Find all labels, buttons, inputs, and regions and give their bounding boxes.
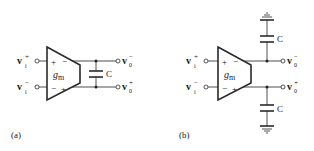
output-label-minus-sup-b: − (294, 53, 298, 61)
output-label-minus-sub-a: 0 (129, 62, 132, 68)
terminal-output-plus-b (281, 85, 285, 89)
output-label-plus-b: v (287, 81, 292, 92)
terminal-input-minus-a (35, 85, 39, 89)
sign-plus-bottom-right-a: + (61, 84, 66, 94)
output-label-minus-b: v (287, 55, 292, 66)
sign-minus-bottom-left-b: − (222, 83, 227, 93)
output-label-plus-sup-b: + (294, 79, 298, 87)
output-label-plus-sub-a: 0 (129, 88, 132, 94)
caption-a: (a) (11, 130, 21, 140)
input-label-plus-b: v (186, 55, 191, 66)
caption-b: (b) (179, 130, 190, 140)
input-label-plus-sup-b: + (194, 53, 198, 61)
sign-plus-top-left-b: + (222, 57, 227, 67)
output-label-plus-sup-a: + (129, 79, 133, 87)
input-label-plus-sub-b: i (194, 63, 196, 69)
input-label-minus-sup-a: − (25, 79, 29, 87)
output-label-minus-a: v (122, 55, 127, 66)
input-label-minus-sub-b: i (194, 89, 196, 95)
junction-dot-bottom-a (95, 86, 98, 89)
input-label-minus-sup-b: − (194, 79, 198, 87)
input-label-plus-sub-a: i (25, 63, 27, 69)
terminal-input-plus-b (204, 59, 208, 63)
input-label-plus-a: v (17, 55, 22, 66)
circuit-diagram: + − − + gm C v + i v − i v − 0 v + 0 (a) (0, 0, 314, 151)
sign-minus-top-right-a: − (62, 56, 67, 66)
terminal-input-minus-b (204, 85, 208, 89)
capacitor-label-top-b: C (277, 34, 283, 44)
input-label-plus-sup-a: + (25, 53, 29, 61)
capacitor-label-bottom-b: C (277, 104, 283, 114)
sign-plus-bottom-right-b: + (232, 84, 237, 94)
input-label-minus-b: v (186, 81, 191, 92)
terminal-output-minus-b (281, 59, 285, 63)
capacitor-label-a: C (106, 69, 112, 79)
sign-minus-bottom-left-a: − (51, 83, 56, 93)
output-label-minus-sup-a: − (129, 53, 133, 61)
output-label-plus-sub-b: 0 (294, 88, 297, 94)
input-label-minus-a: v (17, 81, 22, 92)
output-label-plus-a: v (122, 81, 127, 92)
ground-icon-bottom-b (260, 126, 274, 133)
input-label-minus-sub-a: i (25, 89, 27, 95)
junction-dot-top-a (95, 60, 98, 63)
terminal-output-minus-a (116, 59, 120, 63)
sign-plus-top-left-a: + (51, 57, 56, 67)
junction-dot-bottom-b (266, 86, 269, 89)
ground-icon-top-b (260, 13, 274, 20)
junction-dot-top-b (266, 60, 269, 63)
sign-minus-top-right-b: − (233, 56, 238, 66)
output-label-minus-sub-b: 0 (294, 62, 297, 68)
terminal-input-plus-a (35, 59, 39, 63)
terminal-output-plus-a (116, 85, 120, 89)
panel-b: + − − + gm C C v + (179, 13, 298, 140)
panel-a: + − − + gm C v + i v − i v − 0 v + 0 (a) (11, 47, 133, 140)
